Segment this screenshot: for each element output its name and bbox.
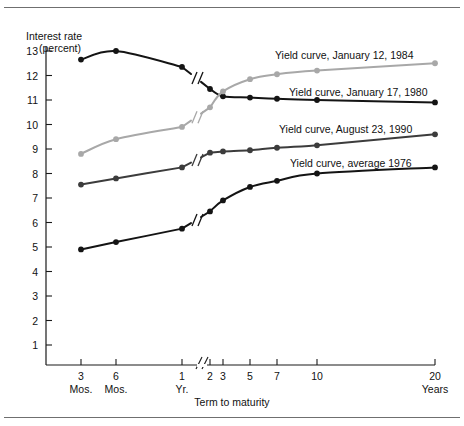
data-point <box>207 104 213 110</box>
data-point <box>220 89 226 95</box>
data-point <box>78 182 84 188</box>
series-layer <box>78 48 438 252</box>
data-point <box>432 100 438 106</box>
x-axis-title: Term to maturity <box>0 396 464 408</box>
y-tick-label: 10 <box>26 119 38 131</box>
y-tick-label: 5 <box>32 241 38 253</box>
y-axis: 12345678910111213 <box>26 45 52 365</box>
x-tick-label: 3 <box>220 370 226 382</box>
data-point <box>179 124 185 130</box>
x-tick-label: 6 <box>113 370 119 382</box>
x-tick-sublabel: Mos. <box>70 383 93 395</box>
data-point <box>220 198 226 204</box>
chart-plot-area: 12345678910111213 3Mos.6Mos.1Yr.23571020… <box>0 0 464 426</box>
x-tick-label: 5 <box>247 370 253 382</box>
data-point <box>274 71 280 77</box>
y-tick-label: 1 <box>32 339 38 351</box>
data-point <box>113 239 119 245</box>
data-point <box>78 57 84 63</box>
data-point <box>274 145 280 151</box>
data-point <box>220 149 226 155</box>
data-point <box>314 142 320 148</box>
series-label: Yield curve, August 23, 1990 <box>279 123 412 135</box>
y-tick-label: 7 <box>32 192 38 204</box>
legend-layer: Yield curve, January 17, 1980Yield curve… <box>275 49 428 169</box>
y-tick-label: 13 <box>26 45 38 57</box>
y-tick-label: 6 <box>32 217 38 229</box>
x-tick-sublabel: Mos. <box>105 383 128 395</box>
data-point <box>179 64 185 70</box>
x-tick-label: 1 <box>179 370 185 382</box>
series-label: Yield curve, January 12, 1984 <box>275 49 414 61</box>
series-break-mark <box>192 154 203 166</box>
x-tick-sublabel: Yr. <box>176 383 189 395</box>
data-point <box>179 164 185 170</box>
data-point <box>207 86 213 92</box>
data-point <box>247 95 253 101</box>
x-tick-label: 2 <box>207 370 213 382</box>
y-tick-label: 3 <box>32 290 38 302</box>
data-point <box>247 184 253 190</box>
data-point <box>432 164 438 170</box>
data-point <box>274 96 280 102</box>
data-point <box>113 176 119 182</box>
y-tick-label: 2 <box>32 315 38 327</box>
series-label: Yield curve, January 17, 1980 <box>289 86 428 98</box>
axis-break-marks <box>196 357 208 369</box>
data-point <box>432 131 438 137</box>
x-tick-label: 10 <box>311 370 323 382</box>
x-tick-sublabel: Years <box>422 383 448 395</box>
data-point <box>314 171 320 177</box>
data-point <box>314 68 320 74</box>
data-point <box>274 178 280 184</box>
x-tick-label: 3 <box>78 370 84 382</box>
data-point <box>207 150 213 156</box>
data-point <box>113 48 119 54</box>
y-tick-label: 12 <box>26 70 38 82</box>
data-point <box>78 151 84 157</box>
x-axis: 3Mos.6Mos.1Yr.23571020Years <box>46 359 448 395</box>
x-tick-label: 7 <box>274 370 280 382</box>
y-tick-label: 9 <box>32 143 38 155</box>
data-point <box>207 209 213 215</box>
y-tick-label: 11 <box>27 94 38 106</box>
x-tick-label: 20 <box>429 370 441 382</box>
data-point <box>78 247 84 253</box>
data-point <box>247 147 253 153</box>
data-point <box>179 226 185 232</box>
data-point <box>432 60 438 66</box>
y-tick-label: 4 <box>32 266 38 278</box>
series-label: Yield curve, average 1976 <box>290 157 412 169</box>
data-point <box>247 76 253 82</box>
y-tick-label: 8 <box>32 168 38 180</box>
series-line <box>81 167 435 249</box>
yield-curve-figure: Interest rate (percent) 1234567891011121… <box>0 0 464 426</box>
data-point <box>113 136 119 142</box>
